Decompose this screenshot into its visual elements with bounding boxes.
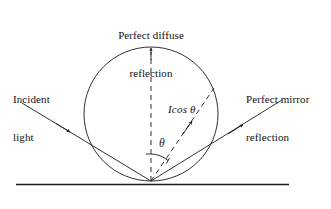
perfect-diffuse-reflection-label: Perfect diffuse reflection xyxy=(91,4,211,104)
incident-light-label-line1: Incident xyxy=(13,93,83,106)
perfect-diffuse-reflection-label-line2: reflection xyxy=(91,67,211,80)
incident-light-label: Incident light xyxy=(13,68,83,168)
theta-arc-tick-right xyxy=(167,158,170,164)
i-cos-theta-label: Icos θ xyxy=(168,103,196,116)
perfect-mirror-reflection-label: Perfect mirror reflection xyxy=(246,68,330,168)
incident-light-label-line2: light xyxy=(13,131,83,144)
perfect-diffuse-reflection-label-line1: Perfect diffuse xyxy=(91,29,211,42)
perfect-mirror-reflection-label-line1: Perfect mirror xyxy=(246,93,330,106)
perfect-mirror-reflection-label-line2: reflection xyxy=(246,131,330,144)
mirror-reflection-ray-arrow xyxy=(228,125,243,135)
theta-angle-arc xyxy=(151,154,168,161)
lighting-reflection-diagram: Perfect diffuse reflection Incident ligh… xyxy=(0,0,331,209)
i-cos-theta-arrow xyxy=(183,121,192,134)
theta-angle-label: θ xyxy=(159,137,165,150)
